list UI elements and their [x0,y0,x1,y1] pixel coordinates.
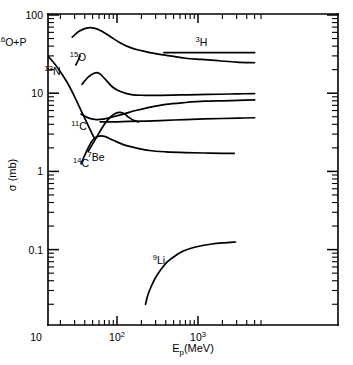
curve-11C [82,73,255,96]
tick-labels-group: 1001010.110102103 [25,9,205,343]
y-tick-label: 0.1 [28,244,43,256]
reaction-label: 16O+P [0,35,26,48]
curve-label-15O: 15O [70,50,87,63]
y-axis-title: σ (mb) [6,159,18,191]
y-tick-label: 1 [37,165,43,177]
curve-label-3H: 3H [195,35,207,48]
axes-group [48,14,338,325]
curve-label-13N: 13N [45,64,61,77]
curve-label-11C: 11C [71,119,87,132]
x-tick-label: 10 [30,331,42,343]
y-tick-label: 10 [31,87,43,99]
curves-group [48,28,255,305]
annotations-group: 16O+P3H15O13N11C14C7Be9Li [0,35,207,266]
curve-flat-curve [100,118,254,122]
axis-titles-group: σ (mb)Ep(MeV) [6,159,214,357]
curve-3H [72,28,254,63]
ticks-group [48,14,338,325]
curve-7Be [88,112,139,151]
curve-label-7Be: 7Be [87,150,104,163]
chart-svg: 1001010.110102103 16O+P3H15O13N11C14C7Be… [0,0,353,365]
x-axis-title: Ep(MeV) [172,342,214,357]
y-tick-label: 100 [25,9,43,21]
curve-curve-rising [81,100,255,120]
figure-cross-section-vs-energy: 1001010.110102103 16O+P3H15O13N11C14C7Be… [0,0,353,365]
x-tick-label: 102 [109,330,125,343]
curve-9Li [146,242,236,304]
curve-label-9Li: 9Li [153,253,165,266]
